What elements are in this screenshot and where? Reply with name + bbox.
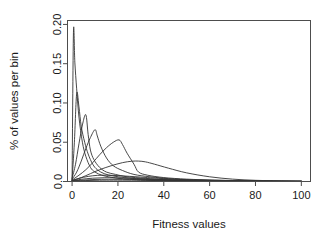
- y-tick-label: 0.05: [52, 132, 64, 153]
- y-tick-label: 0.15: [52, 53, 64, 74]
- x-tick-label: 60: [204, 189, 216, 201]
- x-tick-label: 0: [69, 189, 75, 201]
- x-tick-label: 20: [112, 189, 124, 201]
- fitness-distribution-chart: 020406080100 0.00.050.100.150.20 Fitness…: [0, 0, 328, 245]
- x-tick-label: 40: [158, 189, 170, 201]
- y-tick-label: 0.0: [52, 174, 64, 189]
- x-tick-label: 80: [249, 189, 261, 201]
- x-tick-label: 100: [292, 189, 310, 201]
- chart-page: 020406080100 0.00.050.100.150.20 Fitness…: [0, 0, 328, 245]
- chart-background: [0, 0, 328, 245]
- y-tick-label: 0.10: [52, 92, 64, 113]
- x-axis-title: Fitness values: [152, 218, 226, 230]
- y-tick-label: 0.20: [52, 14, 64, 35]
- y-axis-title: % of values per bin: [8, 52, 20, 150]
